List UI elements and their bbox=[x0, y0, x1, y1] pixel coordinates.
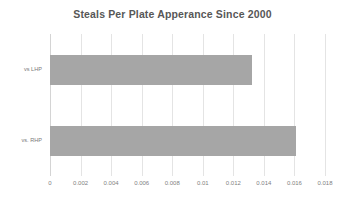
bar[interactable] bbox=[50, 55, 252, 85]
x-axis-tick-label: 0.014 bbox=[256, 180, 271, 186]
x-axis-tick-label: 0.012 bbox=[226, 180, 241, 186]
y-axis-label: vs LHP bbox=[0, 67, 42, 73]
x-axis-tick-label: 0.004 bbox=[104, 180, 119, 186]
gridline bbox=[325, 34, 326, 176]
chart-title: Steals Per Plate Apperance Since 2000 bbox=[0, 8, 345, 20]
x-axis-tick-label: 0.006 bbox=[134, 180, 149, 186]
bar-chart: Steals Per Plate Apperance Since 2000 vs… bbox=[0, 0, 345, 208]
plot-area bbox=[50, 34, 325, 176]
x-axis-tick-label: 0.018 bbox=[317, 180, 332, 186]
x-axis-tick-label: 0.01 bbox=[197, 180, 209, 186]
bar-row bbox=[50, 126, 325, 156]
x-axis-tick-labels: 00.0020.0040.0060.0080.010.0120.0140.016… bbox=[0, 180, 345, 194]
y-axis-label: vs. RHP bbox=[0, 138, 42, 144]
bar[interactable] bbox=[50, 126, 296, 156]
x-axis-tick-label: 0.016 bbox=[287, 180, 302, 186]
x-axis-tick-label: 0.002 bbox=[73, 180, 88, 186]
y-axis-category-labels: vs LHPvs. RHP bbox=[0, 34, 46, 176]
bar-row bbox=[50, 55, 325, 85]
x-axis-tick-label: 0.008 bbox=[165, 180, 180, 186]
x-axis-tick-label: 0 bbox=[48, 180, 51, 186]
